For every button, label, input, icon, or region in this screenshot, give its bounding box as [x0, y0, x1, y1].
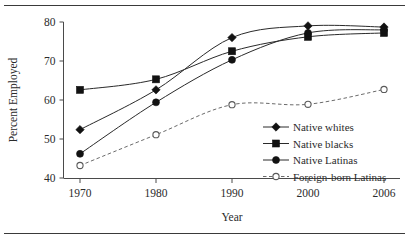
data-point-foreign-born-latinas-2006 [381, 86, 387, 92]
data-point-native-latinas-1990 [229, 56, 236, 63]
y-axis-title: Percent Employed [7, 57, 20, 142]
x-axis-title: Year [221, 211, 242, 223]
data-point-native-latinas-2000 [305, 29, 312, 36]
top-divider-rule [4, 5, 405, 6]
legend-item-native-whites[interactable]: Native whites [263, 121, 354, 133]
data-point-native-blacks-1980 [153, 76, 160, 83]
legend-marker-filled-diamond [272, 123, 280, 131]
x-axis-tick-labels: 19701980199020002006 [69, 187, 396, 199]
legend-marker-open-circle [273, 173, 279, 179]
data-point-native-latinas-1970 [77, 150, 84, 157]
y-axis-tick-labels: 4050607080 [44, 16, 56, 184]
legend-item-native-blacks[interactable]: Native blacks [263, 138, 353, 150]
legend-marker-filled-circle [273, 157, 280, 164]
data-point-native-whites-1990 [228, 33, 236, 41]
data-point-foreign-born-latinas-2000 [305, 101, 311, 107]
data-point-foreign-born-latinas-1980 [153, 132, 159, 138]
data-point-native-whites-2000 [304, 22, 312, 30]
x-tick-label-1970: 1970 [69, 187, 92, 199]
data-point-native-blacks-1990 [229, 48, 236, 55]
y-tick-label-40: 40 [44, 172, 56, 184]
data-point-foreign-born-latinas-1990 [229, 102, 235, 108]
legend-label: Foreign-born Latinas [293, 171, 386, 183]
legend-marker-filled-square [273, 140, 280, 147]
y-axis-ticks [60, 22, 64, 178]
chart-plot-area: 4050607080 19701980199020002006 Percent … [0, 8, 409, 232]
y-tick-label-60: 60 [44, 94, 56, 106]
data-point-native-whites-1980 [152, 86, 160, 94]
y-tick-label-70: 70 [44, 55, 56, 67]
data-point-native-blacks-1970 [77, 86, 84, 93]
y-tick-label-50: 50 [44, 133, 56, 145]
data-point-native-whites-1970 [76, 125, 84, 133]
data-point-native-latinas-1980 [153, 99, 160, 106]
figure-container: 4050607080 19701980199020002006 Percent … [0, 0, 409, 245]
line-chart: 4050607080 19701980199020002006 Percent … [0, 8, 409, 232]
legend-item-foreign-born-latinas[interactable]: Foreign-born Latinas [263, 171, 386, 183]
x-tick-label-2000: 2000 [297, 187, 320, 199]
data-point-native-latinas-2006 [381, 26, 388, 33]
x-tick-label-2006: 2006 [373, 187, 396, 199]
bottom-divider-rule [4, 233, 405, 234]
data-point-foreign-born-latinas-1970 [77, 162, 83, 168]
y-tick-label-80: 80 [44, 16, 56, 28]
legend-label: Native whites [293, 121, 354, 133]
legend-item-native-latinas[interactable]: Native Latinas [263, 154, 357, 166]
legend-label: Native Latinas [293, 154, 357, 166]
x-tick-label-1980: 1980 [145, 187, 168, 199]
legend-label: Native blacks [293, 138, 353, 150]
chart-legend: Native whitesNative blacksNative Latinas… [263, 121, 386, 183]
x-tick-label-1990: 1990 [221, 187, 244, 199]
